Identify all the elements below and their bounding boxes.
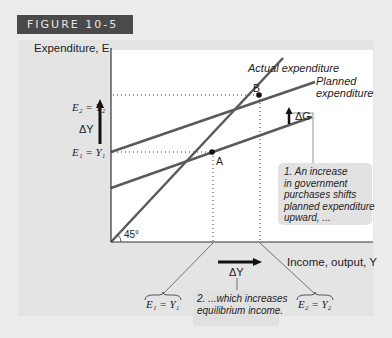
planned-expenditure-label-1: Planned — [316, 75, 356, 87]
delta-y-vertical-label: ΔY — [79, 123, 94, 135]
annotation-2-line: 2. ...which increases — [197, 293, 288, 305]
actual-expenditure-label: Actual expenditure — [248, 62, 339, 74]
e1-leader — [163, 243, 213, 294]
e2-y2-y-tick: E₂ = Y₂ — [72, 101, 105, 113]
e2-y2-x-tick: E₂ = Y₂ — [298, 298, 331, 310]
annotation-1-line: 1. An increase — [284, 166, 375, 178]
annotation-1-line: purchases shifts — [284, 189, 375, 201]
annotation-2-text: 2. ...which increases equilibrium income… — [197, 293, 288, 317]
e2-leader — [260, 243, 315, 294]
annotation-1-line: upward, ... — [284, 212, 375, 224]
e1-y1-x-tick: E₁ = Y₁ — [146, 298, 179, 310]
annotation-1-line: planned expenditure — [284, 201, 375, 213]
annotation-1-line: in government — [284, 178, 375, 190]
point-b-label: B — [253, 82, 260, 94]
arrow-right-icon — [253, 258, 262, 266]
planned-expenditure-label-2: expenditure — [316, 87, 374, 99]
point-a-label: A — [216, 155, 223, 167]
delta-y-horizontal-label: ΔY — [229, 266, 244, 278]
annotation-1-text: 1. An increase in government purchases s… — [284, 166, 375, 224]
angle-label: 45° — [124, 229, 139, 240]
y-axis-label: Expenditure, E — [34, 42, 109, 54]
delta-g-label: ΔG — [295, 110, 311, 122]
point-a — [209, 149, 215, 155]
e1-y1-y-tick: E₁ = Y₁ — [72, 146, 105, 158]
annotation-2-line: equilibrium income. — [197, 305, 288, 317]
x-axis-label: Income, output, Y — [287, 256, 377, 268]
